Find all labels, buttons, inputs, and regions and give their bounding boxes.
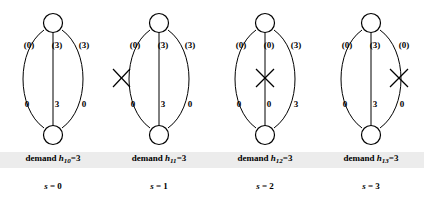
middle-link-capacity-label: (0) bbox=[264, 40, 275, 50]
node-top bbox=[256, 14, 275, 33]
left-arc-capacity-label: (0) bbox=[24, 40, 35, 50]
demand-word: demand bbox=[132, 153, 163, 163]
state-variable: s bbox=[256, 181, 260, 191]
left-arc-capacity-label: (0) bbox=[342, 40, 353, 50]
demand-caption-s3: demand h13=3 bbox=[318, 152, 424, 168]
panel-s2: (0) (0) (3) 0 0 3 demand h12=3 s = 2 bbox=[212, 0, 318, 208]
right-arc-capacity-label: (3) bbox=[185, 40, 196, 50]
left-arc-flow-label: 0 bbox=[131, 99, 136, 109]
demand-subscript: 13 bbox=[382, 157, 389, 165]
node-bottom bbox=[150, 126, 169, 145]
demand-word: demand bbox=[26, 153, 57, 163]
state-value: = 0 bbox=[50, 181, 62, 191]
middle-link-capacity-label: (3) bbox=[370, 40, 381, 50]
state-variable: s bbox=[150, 181, 154, 191]
network-graph-s0: (0) (3) (3) 0 3 0 bbox=[0, 8, 106, 148]
demand-value: =3 bbox=[283, 153, 293, 163]
node-bottom bbox=[44, 126, 63, 145]
demand-word: demand bbox=[344, 153, 375, 163]
right-arc-capacity-label: (3) bbox=[291, 40, 302, 50]
demand-caption-s1: demand h11=3 bbox=[106, 152, 212, 168]
node-top bbox=[362, 14, 381, 33]
panel-s3: (0) (3) (0) 0 3 0 demand h13=3 s = 3 bbox=[318, 0, 424, 208]
middle-link-flow-label: 3 bbox=[161, 99, 166, 109]
middle-link-flow-label: 3 bbox=[55, 99, 60, 109]
demand-subscript: 11 bbox=[170, 157, 177, 165]
left-arc-flow-label: 0 bbox=[343, 99, 348, 109]
right-arc-capacity-label: (0) bbox=[399, 40, 410, 50]
state-value: = 1 bbox=[156, 181, 168, 191]
node-top bbox=[44, 14, 63, 33]
network-graph-s2: (0) (0) (3) 0 0 3 bbox=[212, 8, 318, 148]
state-variable: s bbox=[362, 181, 366, 191]
middle-link-capacity-label: (3) bbox=[158, 40, 169, 50]
demand-caption-s2: demand h12=3 bbox=[212, 152, 318, 168]
state-caption-s1: s = 1 bbox=[106, 181, 212, 191]
network-graph-s3: (0) (3) (0) 0 3 0 bbox=[318, 8, 424, 148]
middle-link-capacity-label: (3) bbox=[52, 40, 63, 50]
panel-s1: (0) (3) (3) 0 3 0 demand h11=3 s = 1 bbox=[106, 0, 212, 208]
demand-value: =3 bbox=[71, 153, 81, 163]
demand-value: =3 bbox=[389, 153, 399, 163]
left-arc-flow-label: 0 bbox=[237, 99, 242, 109]
state-value: = 3 bbox=[368, 181, 380, 191]
figure-panels: (0) (3) (3) 0 3 0 demand h10=3 s = 0 bbox=[0, 0, 425, 208]
state-caption-s0: s = 0 bbox=[0, 181, 106, 191]
right-arc-flow-label: 0 bbox=[188, 99, 193, 109]
node-bottom bbox=[362, 126, 381, 145]
state-caption-s3: s = 3 bbox=[318, 181, 424, 191]
right-arc-flow-label: 0 bbox=[400, 99, 405, 109]
right-arc-flow-label: 0 bbox=[82, 99, 87, 109]
left-arc-capacity-label: (0) bbox=[130, 40, 141, 50]
demand-subscript: 12 bbox=[276, 157, 283, 165]
panel-s0: (0) (3) (3) 0 3 0 demand h10=3 s = 0 bbox=[0, 0, 106, 208]
middle-link-flow-label: 0 bbox=[267, 99, 272, 109]
demand-subscript: 10 bbox=[64, 157, 71, 165]
state-value: = 2 bbox=[262, 181, 274, 191]
network-graph-s1: (0) (3) (3) 0 3 0 bbox=[106, 8, 212, 148]
right-arc-flow-label: 3 bbox=[294, 99, 299, 109]
right-arc-capacity-label: (3) bbox=[79, 40, 90, 50]
demand-value: =3 bbox=[177, 153, 187, 163]
node-bottom bbox=[256, 126, 275, 145]
left-arc-failure-x-icon bbox=[113, 69, 130, 87]
left-arc-capacity-label: (0) bbox=[236, 40, 247, 50]
demand-caption-s0: demand h10=3 bbox=[0, 152, 106, 168]
demand-word: demand bbox=[238, 153, 269, 163]
middle-link-flow-label: 3 bbox=[373, 99, 378, 109]
state-variable: s bbox=[44, 181, 48, 191]
right-arc-failure-x-icon bbox=[390, 69, 408, 87]
left-arc-flow-label: 0 bbox=[25, 99, 30, 109]
node-top bbox=[150, 14, 169, 33]
state-caption-s2: s = 2 bbox=[212, 181, 318, 191]
